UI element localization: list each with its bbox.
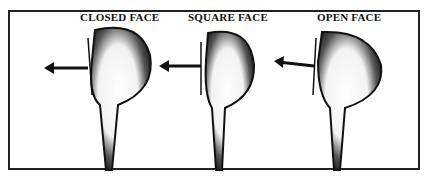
club-closed-face: [44, 28, 151, 170]
club-illustrations: [0, 0, 430, 195]
club-open-face: [274, 32, 381, 170]
club-square-face: [159, 32, 254, 170]
